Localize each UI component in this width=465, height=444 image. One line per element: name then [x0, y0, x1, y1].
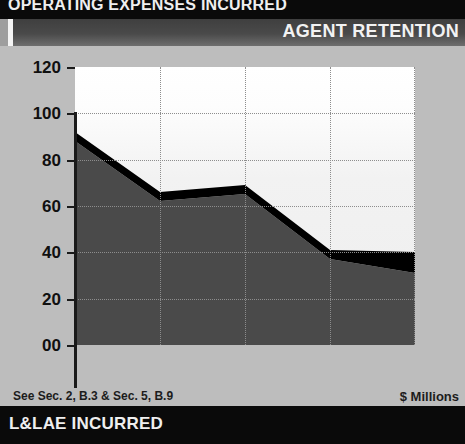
- gridline-x-2007: [414, 67, 416, 345]
- bottom-title-bar: L&LAE INCURRED: [0, 406, 465, 444]
- y-tick-label-60: 60: [15, 198, 61, 215]
- y-tick-label-40: 40: [15, 244, 61, 261]
- y-tick-80: [67, 160, 75, 162]
- y-tick-120: [67, 67, 75, 69]
- gridline-x-2005: [245, 67, 247, 345]
- units-note: $ Millions: [400, 389, 459, 404]
- chart-title-label: AGENT RETENTION: [282, 21, 459, 42]
- top-title-label: OPERATING EXPENSES INCURRED: [8, 0, 287, 14]
- bottom-title-label: L&LAE INCURRED: [9, 414, 163, 434]
- y-tick-label-20: 20: [15, 291, 61, 308]
- y-tick-label-80: 80: [15, 152, 61, 169]
- gridline-x-2004: [160, 67, 162, 345]
- y-tick-40: [67, 252, 75, 254]
- y-tick-100: [67, 113, 75, 115]
- y-tick-60: [67, 206, 75, 208]
- top-title-bar: OPERATING EXPENSES INCURRED: [0, 0, 465, 19]
- y-tick-label-120: 120: [15, 59, 61, 76]
- y-tick-20: [67, 299, 75, 301]
- plot-area: [75, 67, 415, 345]
- source-note: See Sec. 2, B.3 & Sec. 5, B.9: [13, 389, 173, 403]
- chart-screenshot: OPERATING EXPENSES INCURRED AGENT RETENT…: [0, 0, 465, 444]
- footnote-strip: See Sec. 2, B.3 & Sec. 5, B.9 $ Millions: [0, 388, 465, 406]
- chart-title-band: AGENT RETENTION: [0, 19, 465, 46]
- chart-body: 120 100 80 60 40 20 00 2003 2005 2007: [0, 46, 465, 401]
- y-tick-label-100: 100: [15, 105, 61, 122]
- gridline-x-2006: [330, 67, 332, 345]
- y-tick-label-0: 00: [15, 337, 61, 354]
- y-tick-0: [67, 345, 75, 347]
